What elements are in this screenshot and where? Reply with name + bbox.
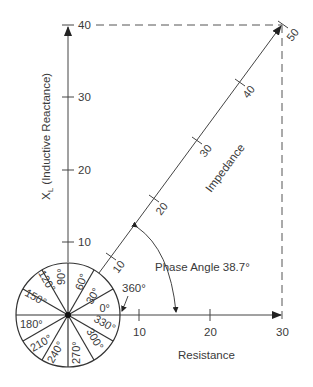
- wheel-180: 180°: [20, 318, 43, 330]
- y-tick-10: 10: [78, 236, 91, 248]
- full-circle-arrow: [122, 296, 128, 311]
- full-circle-label: 360°: [122, 282, 146, 294]
- x-tick-30: 30: [276, 326, 289, 338]
- y-axis-ticks: 40 30 20 10: [62, 19, 91, 248]
- impedance-tick-50: 50: [284, 26, 301, 43]
- impedance-diagram: 40 30 20 10 XL (Inductive Reactance) 10 …: [0, 0, 313, 387]
- y-tick-40: 40: [78, 19, 91, 31]
- impedance-tick-20: 20: [153, 200, 170, 217]
- wheel-270: 270°: [70, 341, 82, 364]
- x-tick-20: 20: [204, 326, 217, 338]
- impedance-tick-30: 30: [197, 142, 214, 159]
- impedance-ticks: [106, 21, 288, 260]
- impedance-tick-40: 40: [240, 83, 257, 100]
- x-tick-10: 10: [133, 326, 146, 338]
- y-axis-label: XL (Inductive Reactance): [40, 73, 55, 200]
- impedance-tick-10: 10: [110, 258, 127, 275]
- wheel-90: 90°: [55, 268, 67, 285]
- degree-wheel: 0° 30° 60° 90° 120° 150° 180° 210° 240° …: [16, 263, 120, 367]
- wheel-0: 0°: [99, 302, 110, 314]
- y-tick-20: 20: [78, 164, 91, 176]
- x-axis-ticks: 10 20 30: [133, 309, 289, 338]
- y-tick-30: 30: [78, 91, 91, 103]
- phase-angle-label: Phase Angle 38.7°: [155, 261, 250, 273]
- x-axis-label: Resistance: [178, 349, 235, 361]
